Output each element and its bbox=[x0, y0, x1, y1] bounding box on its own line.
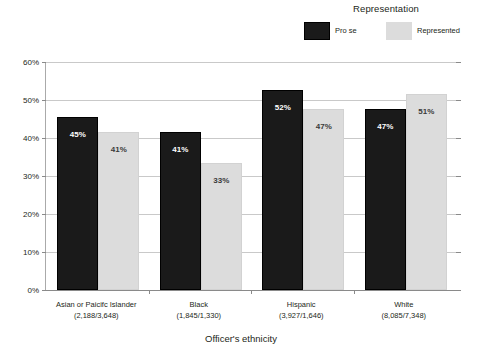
bar-represented: 51% bbox=[406, 94, 447, 290]
x-axis-category: White(8,085/7,348) bbox=[353, 299, 456, 321]
bar-value-label: 47% bbox=[366, 122, 405, 131]
y-axis-tick-right bbox=[456, 214, 461, 215]
y-axis-tick-right bbox=[456, 138, 461, 139]
x-axis-tick bbox=[354, 290, 355, 294]
bar-pro-se: 45% bbox=[57, 117, 98, 290]
y-axis-tick-right bbox=[456, 252, 461, 253]
plot-area: 0%10%20%30%40%50%60% 45%41%41%33%52%47%4… bbox=[45, 62, 456, 291]
y-axis-tick bbox=[42, 290, 46, 291]
y-axis-label: 10% bbox=[23, 248, 39, 257]
y-axis-tick-right bbox=[456, 290, 461, 291]
y-axis-tick bbox=[42, 138, 46, 139]
y-axis-label: 50% bbox=[23, 96, 39, 105]
legend-label-pro-se: Pro se bbox=[335, 26, 357, 35]
legend-swatch-represented bbox=[386, 22, 412, 40]
gridline bbox=[46, 62, 456, 63]
category-name: Hispanic bbox=[250, 299, 353, 310]
x-axis-category: Black(1,845/1,330) bbox=[148, 299, 251, 321]
category-counts: (8,085/7,348) bbox=[353, 310, 456, 321]
x-axis-tick bbox=[149, 290, 150, 294]
bar-value-label: 51% bbox=[407, 107, 446, 116]
y-axis-label: 0% bbox=[27, 286, 39, 295]
category-counts: (3,927/1,646) bbox=[250, 310, 353, 321]
bar-value-label: 52% bbox=[263, 103, 302, 112]
x-axis-title: Officer's ethnicity bbox=[0, 333, 482, 344]
legend-title: Representation bbox=[296, 3, 476, 14]
legend-label-represented: Represented bbox=[417, 26, 460, 35]
bar-value-label: 33% bbox=[202, 176, 241, 185]
y-axis-tick-right bbox=[456, 62, 461, 63]
bar-represented: 41% bbox=[98, 132, 139, 290]
y-axis-label: 30% bbox=[23, 172, 39, 181]
category-counts: (1,845/1,330) bbox=[148, 310, 251, 321]
y-axis-label: 40% bbox=[23, 134, 39, 143]
bar-represented: 47% bbox=[303, 109, 344, 290]
y-axis-label: 20% bbox=[23, 210, 39, 219]
y-axis-tick-right bbox=[456, 176, 461, 177]
y-axis-tick bbox=[42, 176, 46, 177]
gridline bbox=[46, 100, 456, 101]
category-name: White bbox=[353, 299, 456, 310]
bar-pro-se: 41% bbox=[160, 132, 201, 290]
y-axis-tick-right bbox=[456, 100, 461, 101]
chart-legend: Representation Pro se Represented bbox=[296, 3, 476, 45]
bar-represented: 33% bbox=[201, 163, 242, 290]
x-axis-category: Asian or Paicifc Islander(2,188/3,648) bbox=[45, 299, 148, 321]
x-axis-tick bbox=[251, 290, 252, 294]
y-axis-label: 60% bbox=[23, 58, 39, 67]
x-axis-category: Hispanic(3,927/1,646) bbox=[250, 299, 353, 321]
y-axis-tick bbox=[42, 100, 46, 101]
legend-entry-represented: Represented bbox=[386, 22, 460, 39]
category-name: Asian or Paicifc Islander bbox=[45, 299, 148, 310]
bar-pro-se: 52% bbox=[262, 90, 303, 290]
legend-entry-pro-se: Pro se bbox=[304, 22, 357, 39]
category-name: Black bbox=[148, 299, 251, 310]
bar-pro-se: 47% bbox=[365, 109, 406, 290]
y-axis-tick bbox=[42, 62, 46, 63]
bar-value-label: 41% bbox=[161, 145, 200, 154]
category-counts: (2,188/3,648) bbox=[45, 310, 148, 321]
bar-value-label: 45% bbox=[58, 130, 97, 139]
bar-value-label: 47% bbox=[304, 122, 343, 131]
y-axis-tick bbox=[42, 214, 46, 215]
bar-value-label: 41% bbox=[99, 145, 138, 154]
legend-swatch-pro-se bbox=[304, 22, 330, 40]
y-axis-tick bbox=[42, 252, 46, 253]
